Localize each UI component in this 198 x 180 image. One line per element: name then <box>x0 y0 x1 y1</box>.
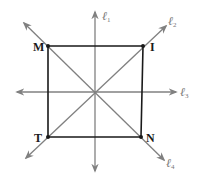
vertex-point-t <box>46 135 50 139</box>
vertex-point-n <box>139 135 143 139</box>
vertex-label-t: T <box>34 131 42 145</box>
vertex-label-n: N <box>146 131 155 145</box>
line-label-l2: ℓ2 <box>168 14 177 29</box>
vertex-label-i: I <box>150 40 155 54</box>
line-labels: ℓ1 ℓ2 ℓ3 ℓ4 <box>102 9 189 171</box>
line-label-l3: ℓ3 <box>180 85 189 100</box>
vertex-label-m: M <box>33 40 44 54</box>
line-label-l4: ℓ4 <box>166 156 175 171</box>
line-label-l1: ℓ1 <box>102 9 111 24</box>
symmetry-diagram: M I N T ℓ1 ℓ2 ℓ3 ℓ4 <box>0 0 198 180</box>
vertex-point-i <box>141 44 145 48</box>
vertex-point-m <box>46 44 50 48</box>
symmetry-lines <box>17 12 176 171</box>
